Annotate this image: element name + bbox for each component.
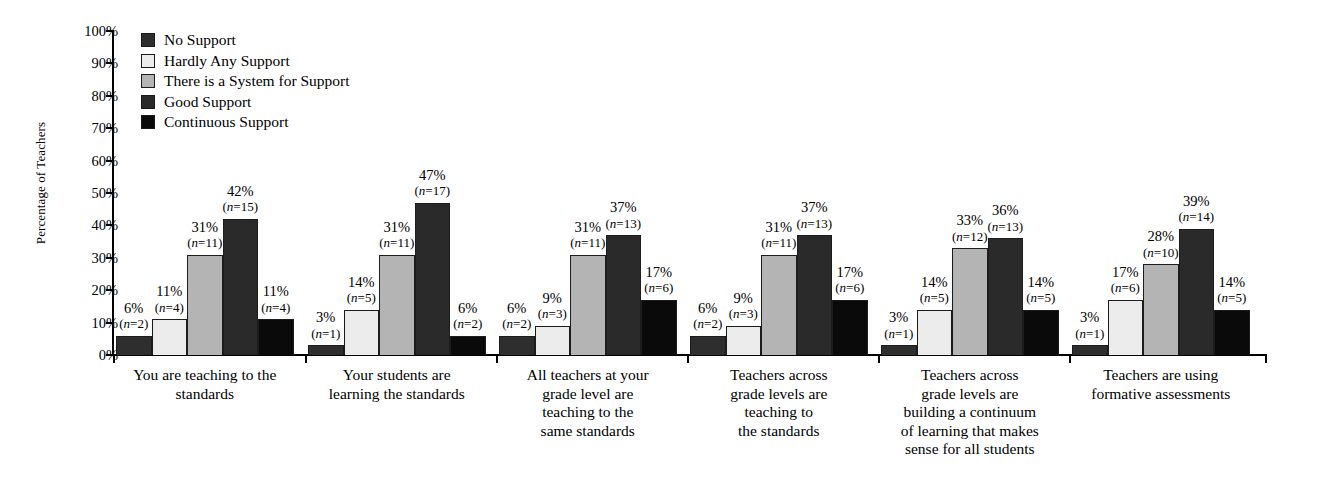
bar-percent-text: 11%	[263, 283, 289, 299]
bar-percent-text: 37%	[610, 199, 637, 215]
bar-percent-text: 14%	[1218, 274, 1245, 290]
bar-count-text: (n=6)	[816, 280, 884, 295]
bar-value-label: 36%(n=13)	[971, 203, 1039, 234]
bar-value-label: 14%(n=5)	[1007, 275, 1075, 306]
bar[interactable]	[152, 319, 188, 355]
x-axis-tick-mark	[1069, 356, 1071, 363]
x-axis-tick-mark	[687, 356, 689, 363]
bar[interactable]	[379, 255, 415, 355]
bar[interactable]	[344, 310, 380, 355]
bar-percent-text: 9%	[734, 290, 753, 306]
bar[interactable]	[761, 255, 797, 355]
bar-percent-text: 42%	[227, 183, 254, 199]
legend-swatch-icon	[141, 95, 155, 109]
bar-value-label: 42%(n=15)	[206, 184, 274, 215]
bar-count-text: (n=13)	[780, 216, 848, 231]
y-axis-tick-mark	[106, 95, 113, 97]
bar-count-text: (n=5)	[1007, 290, 1075, 305]
bar-count-text: (n=17)	[398, 183, 466, 198]
bar[interactable]	[258, 319, 294, 355]
bar-percent-text: 36%	[992, 202, 1019, 218]
bar-percent-text: 28%	[1147, 228, 1174, 244]
bar-percent-text: 14%	[1027, 274, 1054, 290]
bar-value-label: 39%(n=14)	[1162, 194, 1230, 225]
bar[interactable]	[450, 336, 486, 355]
bar[interactable]	[1023, 310, 1059, 355]
legend-swatch-icon	[141, 54, 155, 68]
bar[interactable]	[116, 336, 152, 355]
bar[interactable]	[1214, 310, 1250, 355]
legend-item-label: Continuous Support	[164, 114, 288, 130]
category-label: Teachers across grade levels are teachin…	[669, 366, 889, 440]
category-label: Your students are learning the standards	[287, 366, 507, 403]
bar-percent-text: 14%	[921, 274, 948, 290]
bar-value-label: 17%(n=6)	[625, 265, 693, 296]
bar-value-label: 17%(n=6)	[816, 265, 884, 296]
bar[interactable]	[832, 300, 868, 355]
bar-count-text: (n=13)	[589, 216, 657, 231]
bar-value-label: 14%(n=5)	[1198, 275, 1266, 306]
bar-percent-text: 17%	[836, 264, 863, 280]
bar[interactable]	[415, 203, 451, 355]
bar[interactable]	[187, 255, 223, 355]
legend-item-label: Hardly Any Support	[164, 53, 290, 69]
bar-percent-text: 3%	[316, 309, 335, 325]
bar[interactable]	[881, 345, 917, 355]
legend-item[interactable]: Good Support	[141, 92, 350, 113]
category-label: All teachers at your grade level are tea…	[478, 366, 698, 440]
category-label: You are teaching to the standards	[95, 366, 315, 403]
legend-item-label: No Support	[164, 32, 236, 48]
bar-percent-text: 14%	[348, 274, 375, 290]
bar[interactable]	[690, 336, 726, 355]
legend-item[interactable]: No Support	[141, 30, 350, 51]
legend-item[interactable]: Continuous Support	[141, 112, 350, 133]
bar-percent-text: 3%	[889, 309, 908, 325]
y-axis-tick-mark	[106, 127, 113, 129]
bar-count-text: (n=6)	[625, 280, 693, 295]
bar-value-label: 37%(n=13)	[780, 200, 848, 231]
x-axis-tick-mark	[1265, 356, 1267, 363]
bar-count-text: (n=5)	[1198, 290, 1266, 305]
bar[interactable]	[1072, 345, 1108, 355]
bar-count-text: (n=13)	[971, 219, 1039, 234]
legend-item[interactable]: Hardly Any Support	[141, 51, 350, 72]
legend-item-label: Good Support	[164, 94, 251, 110]
bar-percent-text: 17%	[645, 264, 672, 280]
bar-percent-text: 37%	[801, 199, 828, 215]
bar[interactable]	[499, 336, 535, 355]
bar[interactable]	[726, 326, 762, 355]
legend-swatch-icon	[141, 115, 155, 129]
legend-swatch-icon	[141, 74, 155, 88]
y-axis-tick-mark	[106, 192, 113, 194]
bar[interactable]	[952, 248, 988, 355]
y-axis-tick-mark	[106, 30, 113, 32]
x-axis-tick-mark	[496, 356, 498, 363]
bar[interactable]	[1143, 264, 1179, 355]
category-label: Teachers are using formative assessments	[1051, 366, 1271, 403]
bar[interactable]	[1108, 300, 1144, 355]
bar-value-label: 47%(n=17)	[398, 168, 466, 199]
bar-value-label: 37%(n=13)	[589, 200, 657, 231]
bar[interactable]	[917, 310, 953, 355]
x-axis-tick-mark	[878, 356, 880, 363]
legend-item[interactable]: There is a System for Support	[141, 71, 350, 92]
y-axis-tick-mark	[106, 289, 113, 291]
bar-percent-text: 11%	[156, 283, 182, 299]
bar-percent-text: 31%	[383, 219, 410, 235]
bar[interactable]	[641, 300, 677, 355]
bar-percent-text: 47%	[419, 167, 446, 183]
bar-chart: Percentage of Teachers 100%90%80%70%60%5…	[0, 0, 1325, 490]
bar-percent-text: 31%	[191, 219, 218, 235]
category-label: Teachers across grade levels are buildin…	[860, 366, 1080, 459]
bar-percent-text: 6%	[458, 300, 477, 316]
bar-count-text: (n=15)	[206, 199, 274, 214]
legend-item-label: There is a System for Support	[164, 73, 350, 89]
bar-percent-text: 9%	[543, 290, 562, 306]
bar[interactable]	[308, 345, 344, 355]
bar[interactable]	[570, 255, 606, 355]
x-axis-tick-mark	[305, 356, 307, 363]
y-axis-tick-mark	[106, 224, 113, 226]
legend: No SupportHardly Any SupportThere is a S…	[141, 30, 350, 133]
bar-percent-text: 39%	[1183, 193, 1210, 209]
bar[interactable]	[535, 326, 571, 355]
